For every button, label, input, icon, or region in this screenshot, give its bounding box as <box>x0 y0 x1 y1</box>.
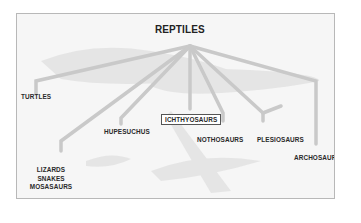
node-ichthyosaurs: ICHTHYOSAURS <box>161 114 221 125</box>
node-lizards-snakes-mosasaurs: LIZARDS SNAKES MOSASAURS <box>25 166 77 192</box>
diagram-frame: REPTILES TURTLES HUPESUCHUS ICHTHYOSAURS… <box>16 13 335 199</box>
node-hupesuchus: HUPESUCHUS <box>104 128 150 137</box>
node-plesiosaurs: PLESIOSAURS <box>257 136 304 145</box>
node-nothosaurs: NOTHOSAURS <box>197 136 243 145</box>
diagram-title: REPTILES <box>155 26 205 35</box>
node-lizards: LIZARDS <box>25 166 77 175</box>
node-turtles: TURTLES <box>21 93 51 102</box>
node-archosaurs: ARCHOSAURS <box>294 154 335 163</box>
node-snakes: SNAKES <box>25 175 77 184</box>
node-mosasaurs: MOSASAURS <box>25 183 77 192</box>
